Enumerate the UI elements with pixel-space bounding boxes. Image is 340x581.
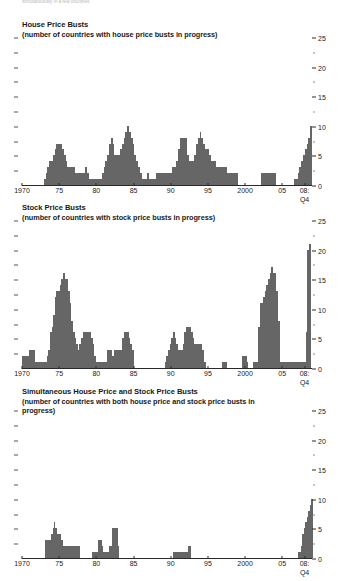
chart-2-title: Stock Price Busts bbox=[22, 203, 292, 213]
y-axis-label: 5 bbox=[318, 336, 322, 343]
x-axis-label: 05 bbox=[278, 370, 286, 378]
x-axis-label: 95 bbox=[204, 370, 212, 378]
y-axis-label: 10 bbox=[318, 306, 326, 313]
x-axis-tick bbox=[170, 183, 171, 186]
top-note-text: simultaneously in a few countries. bbox=[22, 0, 312, 5]
x-axis-tick bbox=[207, 183, 208, 186]
left-minor-tick bbox=[14, 499, 18, 500]
chart-panel-house-price-busts: House Price Busts (number of countries w… bbox=[0, 16, 340, 194]
bar bbox=[278, 321, 280, 368]
y-axis-tick bbox=[312, 499, 316, 500]
x-axis-label: 08: bbox=[300, 187, 310, 195]
left-minor-tick bbox=[14, 529, 18, 530]
x-axis-tick bbox=[282, 183, 283, 186]
y-axis-minor-tick bbox=[313, 354, 315, 355]
y-axis-minor-tick bbox=[313, 544, 315, 545]
y-axis-label: 25 bbox=[318, 218, 326, 225]
x-axis-tick bbox=[170, 366, 171, 369]
x-axis-tick bbox=[245, 366, 246, 369]
x-axis-tick bbox=[133, 556, 134, 559]
x-axis-label: 85 bbox=[130, 560, 138, 568]
y-axis-tick bbox=[312, 559, 316, 560]
x-axis-tick bbox=[133, 183, 134, 186]
chart-1-header: House Price Busts (number of countries w… bbox=[22, 20, 292, 39]
y-axis-tick bbox=[312, 250, 316, 251]
x-axis-label: 75 bbox=[55, 370, 63, 378]
y-axis-label: 15 bbox=[318, 277, 326, 284]
y-axis-tick bbox=[312, 156, 316, 157]
chart-1-y-axis: 0510152025 bbox=[312, 38, 340, 186]
x-axis-label: 2000 bbox=[237, 560, 253, 568]
x-axis-label: 85 bbox=[130, 370, 138, 378]
x-axis-label: 80 bbox=[92, 187, 100, 195]
y-axis-label: 25 bbox=[318, 35, 326, 42]
bar bbox=[225, 362, 227, 368]
y-axis-label: 5 bbox=[318, 526, 322, 533]
chart-2-header: Stock Price Busts (number of countries w… bbox=[22, 203, 292, 222]
left-minor-tick bbox=[14, 514, 18, 515]
x-axis-label: 05 bbox=[278, 187, 286, 195]
chart-panel-stock-price-busts: Stock Price Busts (number of countries w… bbox=[0, 199, 340, 377]
y-axis-tick bbox=[312, 309, 316, 310]
x-axis-label: 2000 bbox=[237, 187, 253, 195]
x-axis-label: 90 bbox=[167, 560, 175, 568]
y-axis-label: 15 bbox=[318, 94, 326, 101]
chart-1-left-ticks bbox=[14, 38, 22, 186]
left-minor-tick bbox=[14, 250, 18, 251]
bar bbox=[274, 173, 276, 185]
x-axis-tick bbox=[59, 556, 60, 559]
x-axis-tick bbox=[304, 556, 305, 559]
y-axis-tick bbox=[312, 339, 316, 340]
y-axis-tick bbox=[312, 221, 316, 222]
chart-2-y-axis: 0510152025 bbox=[312, 221, 340, 369]
chart-1-bars bbox=[22, 38, 312, 185]
x-axis-label: 2000 bbox=[237, 370, 253, 378]
x-axis-label: 75 bbox=[55, 560, 63, 568]
x-axis-tick bbox=[207, 556, 208, 559]
y-axis-label: 10 bbox=[318, 123, 326, 130]
x-axis-label: 85 bbox=[130, 187, 138, 195]
y-axis-tick bbox=[312, 186, 316, 187]
chart-3-left-ticks bbox=[14, 411, 22, 559]
x-axis-tick bbox=[96, 183, 97, 186]
left-minor-tick bbox=[14, 425, 18, 426]
left-minor-tick bbox=[14, 265, 18, 266]
bar bbox=[247, 362, 249, 368]
chart-3-bars bbox=[22, 411, 312, 558]
chart-3-y-axis: 0510152025 bbox=[312, 411, 340, 559]
x-axis-tick bbox=[282, 556, 283, 559]
y-axis-tick bbox=[312, 369, 316, 370]
x-axis-label: 95 bbox=[204, 187, 212, 195]
y-axis-minor-tick bbox=[313, 514, 315, 515]
y-axis-minor-tick bbox=[313, 485, 315, 486]
x-axis-label: 1970 bbox=[14, 560, 30, 568]
left-minor-tick bbox=[14, 470, 18, 471]
x-axis-tick bbox=[22, 556, 23, 559]
x-axis-tick bbox=[245, 183, 246, 186]
bar bbox=[309, 244, 311, 368]
y-axis-minor-tick bbox=[313, 455, 315, 456]
x-axis-label: 95 bbox=[204, 560, 212, 568]
x-axis-tick bbox=[245, 556, 246, 559]
chart-2-plot-area bbox=[22, 221, 312, 369]
x-axis-label: 80 bbox=[92, 370, 100, 378]
y-axis-minor-tick bbox=[313, 235, 315, 236]
left-minor-tick bbox=[14, 235, 18, 236]
x-axis-label-secondary: Q4 bbox=[300, 569, 309, 577]
chart-1-plot-area bbox=[22, 38, 312, 186]
left-minor-tick bbox=[14, 339, 18, 340]
bar bbox=[118, 546, 119, 558]
left-minor-tick bbox=[14, 295, 18, 296]
chart-3-title: Simultaneous House Price and Stock Price… bbox=[22, 387, 292, 397]
x-axis-tick bbox=[59, 183, 60, 186]
x-axis-tick bbox=[304, 183, 305, 186]
left-minor-tick bbox=[14, 324, 18, 325]
left-minor-tick bbox=[14, 455, 18, 456]
y-axis-label: 20 bbox=[318, 64, 326, 71]
y-axis-tick bbox=[312, 280, 316, 281]
left-minor-tick bbox=[14, 485, 18, 486]
chart-2-bars bbox=[22, 221, 312, 368]
x-axis-tick bbox=[59, 366, 60, 369]
y-axis-minor-tick bbox=[313, 265, 315, 266]
